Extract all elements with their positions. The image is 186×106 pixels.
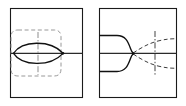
left-panel	[11, 9, 83, 98]
right-upper-converging-curve	[100, 36, 133, 54]
figure-sheet	[0, 0, 186, 106]
drawing-canvas	[0, 0, 186, 106]
right-throat-node	[132, 52, 135, 55]
left-vertex-node	[62, 52, 65, 55]
right-lower-converging-curve	[100, 54, 133, 72]
right-panel	[100, 9, 177, 98]
